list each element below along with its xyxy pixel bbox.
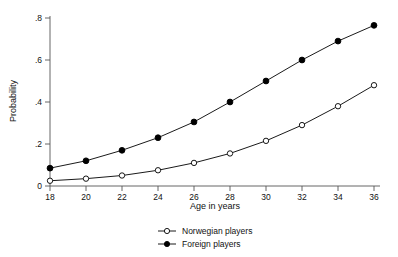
x-tick-label: 34 [333, 192, 343, 202]
data-point [371, 83, 376, 88]
y-axis-ticks [45, 18, 50, 186]
data-point [227, 151, 232, 156]
data-point [119, 173, 124, 178]
data-point [299, 57, 305, 63]
data-point [119, 147, 125, 153]
chart-figure: .8 .6 .4 .2 0 18202224262830323436 Age i… [0, 0, 398, 257]
x-tick-label: 32 [297, 192, 307, 202]
legend-label: Norwegian players [182, 226, 252, 236]
legend-item-norwegian-players[interactable]: Norwegian players [158, 226, 252, 236]
x-tick-label: 24 [153, 192, 163, 202]
x-tick-label: 20 [81, 192, 91, 202]
series-layer [47, 22, 377, 183]
y-tick-label: .8 [35, 13, 42, 23]
y-tick-label: .6 [35, 55, 42, 65]
y-tick-label: 0 [37, 181, 42, 191]
data-point [83, 176, 88, 181]
data-point [335, 38, 341, 44]
x-tick-label: 18 [45, 192, 55, 202]
y-axis-title: Probability [8, 79, 18, 122]
y-axis-tick-labels: .8 .6 .4 .2 0 [35, 13, 42, 191]
data-point [191, 119, 197, 125]
data-point [371, 22, 377, 28]
data-point [263, 78, 269, 84]
data-point [155, 135, 161, 141]
open-circle-icon [164, 228, 169, 233]
y-tick-label: .2 [35, 139, 42, 149]
data-point [335, 104, 340, 109]
series-line [50, 25, 374, 168]
data-point [47, 165, 53, 171]
data-point [299, 122, 304, 127]
filled-circle-icon [164, 241, 169, 246]
legend-label: Foreign players [182, 239, 241, 249]
data-point [227, 99, 233, 105]
data-point [263, 138, 268, 143]
x-tick-label: 30 [261, 192, 271, 202]
y-tick-label: .4 [35, 97, 42, 107]
series-line [50, 85, 374, 181]
x-tick-label: 22 [117, 192, 127, 202]
series-foreign-players [47, 22, 377, 171]
chart-legend: Norwegian players Foreign players [158, 226, 252, 249]
series-norwegian-players [47, 83, 376, 184]
x-tick-label: 36 [369, 192, 379, 202]
data-point [83, 158, 89, 164]
data-point [191, 160, 196, 165]
x-axis-title: Age in years [190, 201, 241, 211]
legend-item-foreign-players[interactable]: Foreign players [158, 239, 241, 249]
data-point [47, 178, 52, 183]
probability-by-age-line-chart: .8 .6 .4 .2 0 18202224262830323436 Age i… [0, 0, 398, 257]
x-axis-ticks [50, 186, 374, 191]
data-point [155, 168, 160, 173]
